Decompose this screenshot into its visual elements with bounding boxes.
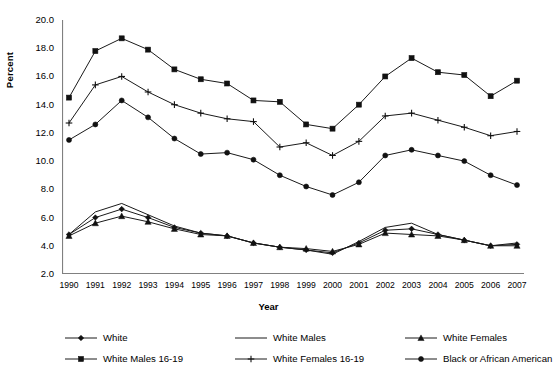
y-tick-label: 16.0: [20, 71, 54, 81]
y-tick-label: 8.0: [20, 184, 54, 194]
legend-item-white-females[interactable]: White Females: [404, 327, 557, 348]
legend-label: White Males 16-19: [103, 353, 183, 364]
y-axis-title: Percent: [4, 10, 15, 130]
series-white-females-16-19: [66, 73, 521, 159]
circle-marker-icon: [404, 353, 438, 365]
y-tick-label: 6.0: [20, 213, 54, 223]
legend-item-white[interactable]: White: [64, 327, 234, 348]
plot-area: [62, 20, 524, 274]
axis-lines: [62, 20, 524, 274]
legend-item-white-females-16-19[interactable]: White Females 16-19: [234, 348, 404, 369]
x-axis-title: Year: [0, 301, 537, 312]
y-tick-label: 20.0: [20, 15, 54, 25]
chart-lines: [62, 20, 524, 274]
y-tick-label: 10.0: [20, 156, 54, 166]
legend-label: White Females 16-19: [273, 353, 364, 364]
series-white-males: [69, 203, 517, 254]
none-marker-icon: [234, 332, 268, 344]
square-marker-icon: [64, 353, 98, 365]
x-tick-label: 2007: [500, 280, 534, 290]
legend-label: White: [103, 332, 128, 343]
legend-item-white-males-16-19[interactable]: White Males 16-19: [64, 348, 234, 369]
y-tick-label: 2.0: [20, 269, 54, 279]
y-tick-label: 4.0: [20, 241, 54, 251]
series-white-females: [66, 213, 520, 254]
y-tick-label: 18.0: [20, 43, 54, 53]
triangle-marker-icon: [404, 332, 438, 344]
chart-legend: WhiteWhite MalesWhite FemalesWhite Males…: [64, 327, 534, 369]
legend-item-white-males[interactable]: White Males: [234, 327, 404, 348]
legend-label: White Males: [273, 332, 326, 343]
diamond-marker-icon: [64, 332, 98, 344]
plus-marker-icon: [234, 353, 268, 365]
legend-item-black-or-african-american[interactable]: Black or African American: [404, 348, 557, 369]
y-tick-label: 12.0: [20, 128, 54, 138]
y-tick-label: 14.0: [20, 100, 54, 110]
legend-label: Black or African American: [443, 353, 552, 364]
legend-label: White Females: [443, 332, 507, 343]
